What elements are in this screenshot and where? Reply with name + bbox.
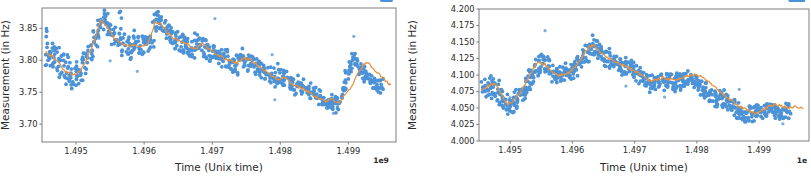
x-axis-offset-label: 1e9: [373, 156, 389, 165]
y-tick-label: 4.150: [451, 37, 475, 47]
y-axis-title: Measurement (in Hz): [406, 20, 418, 130]
y-tick-label: 3.70: [19, 119, 37, 129]
x-axis-title: Time (Unix time): [174, 161, 263, 173]
y-tick-label: 3.80: [19, 55, 37, 65]
x-tick-label: 1.495: [498, 145, 522, 155]
x-tick-label: 1.496: [132, 146, 156, 156]
scatter-series-measurements: [44, 0, 393, 115]
x-tick-label: 1.495: [64, 146, 88, 156]
y-tick-label: 4.100: [451, 70, 475, 80]
chart-panel-right: 4.0004.0254.0504.0754.1004.1254.1504.175…: [405, 0, 811, 177]
y-tick-label: 3.85: [19, 23, 37, 33]
y-tick-label: 4.075: [451, 86, 475, 96]
scatter-series-measurements: [479, 0, 805, 125]
y-tick-label: 4.000: [451, 136, 475, 146]
x-tick-label: 1.498: [685, 145, 709, 155]
figure-container: 3.703.753.803.851.4951.4961.4971.4981.49…: [0, 0, 811, 177]
scatter-plot-left: 3.703.753.803.851.4951.4961.4971.4981.49…: [0, 0, 405, 177]
x-tick-label: 1.498: [268, 146, 292, 156]
y-tick-label: 4.050: [451, 103, 475, 113]
y-axis-title: Measurement (in Hz): [0, 20, 11, 130]
x-tick-label: 1.497: [200, 146, 224, 156]
y-tick-label: 3.75: [19, 87, 37, 97]
x-axis-offset-label: 1e: [797, 156, 807, 165]
scatter-plot-right: 4.0004.0254.0504.0754.1004.1254.1504.175…: [405, 0, 811, 177]
x-axis-title: Time (Unix time): [599, 161, 688, 173]
y-tick-label: 4.175: [451, 20, 475, 30]
y-tick-label: 4.125: [451, 53, 475, 63]
plot-frame: [42, 8, 396, 142]
x-tick-label: 1.499: [336, 146, 360, 156]
x-tick-label: 1.496: [561, 145, 585, 155]
x-tick-label: 1.497: [623, 145, 647, 155]
x-tick-label: 1.499: [747, 145, 771, 155]
chart-panel-left: 3.703.753.803.851.4951.4961.4971.4981.49…: [0, 0, 405, 177]
y-tick-label: 4.025: [451, 119, 475, 129]
y-tick-label: 4.200: [451, 4, 475, 14]
